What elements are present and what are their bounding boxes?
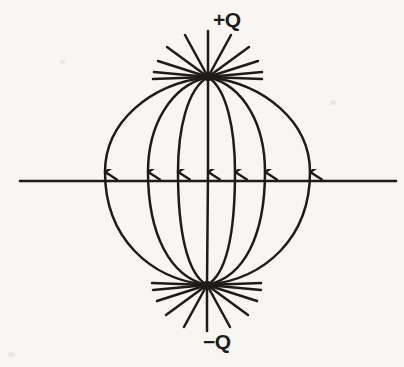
field-lines-upper-half — [105, 77, 310, 172]
negative-charge-point — [203, 281, 211, 289]
dipole-field-svg — [0, 0, 404, 367]
field-line-lower — [207, 172, 235, 285]
field-line-upper — [208, 77, 235, 172]
field-line-lower — [178, 172, 207, 285]
negative-charge-radiating-stubs — [152, 283, 261, 331]
field-line-upper — [178, 77, 208, 172]
field-lines-lower-half — [105, 172, 310, 285]
positive-charge-label: +Q — [213, 9, 241, 30]
positive-charge-point — [204, 73, 212, 81]
field-line-lower — [207, 172, 208, 285]
dipole-field-diagram: +Q −Q — [0, 0, 404, 367]
field-line-upper — [208, 77, 310, 172]
negative-charge-label: −Q — [203, 331, 231, 352]
positive-charge-radiating-stubs — [153, 31, 262, 79]
